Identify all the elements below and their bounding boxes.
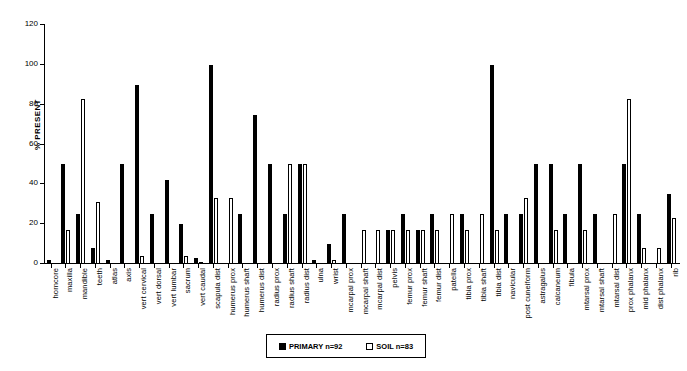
y-tick-label: 0 bbox=[34, 259, 38, 267]
bar-group bbox=[165, 24, 180, 264]
bar-soil bbox=[303, 164, 307, 264]
bar-soil bbox=[96, 202, 100, 264]
x-tick-label: rib bbox=[672, 268, 680, 277]
bar-soil bbox=[376, 230, 380, 264]
x-tick-label: horncore bbox=[52, 268, 60, 298]
x-tick-label: tibia prox bbox=[465, 268, 473, 299]
x-tick-label: calcaneum bbox=[554, 268, 562, 305]
bar-group bbox=[357, 24, 372, 264]
bar-primary bbox=[150, 214, 154, 264]
y-tick-label: 20 bbox=[29, 219, 38, 227]
y-tick-label: 100 bbox=[25, 60, 38, 68]
x-tick-label: wrist bbox=[332, 268, 340, 284]
bar-primary bbox=[298, 164, 302, 264]
bar-soil bbox=[524, 198, 528, 264]
bar-primary bbox=[253, 115, 257, 264]
bar-primary bbox=[519, 214, 523, 264]
bar-primary bbox=[504, 214, 508, 264]
bar-soil bbox=[199, 262, 203, 264]
bar-group bbox=[61, 24, 76, 264]
x-tick-label: mcarpal prox bbox=[347, 268, 355, 313]
bar-soil bbox=[332, 260, 336, 264]
x-tick-label: radius prox bbox=[273, 268, 281, 306]
bar-primary bbox=[637, 214, 641, 264]
bar-group bbox=[549, 24, 564, 264]
bar-soil bbox=[288, 164, 292, 264]
x-tick-label: axis bbox=[125, 268, 133, 282]
x-tick-label: mid phalanx bbox=[642, 268, 650, 310]
bar-primary bbox=[238, 214, 242, 264]
bar-group bbox=[519, 24, 534, 264]
bar-soil bbox=[613, 214, 617, 264]
bar-soil bbox=[421, 230, 425, 264]
bar-group bbox=[490, 24, 505, 264]
bar-primary bbox=[578, 164, 582, 264]
bar-soil bbox=[642, 248, 646, 264]
bar-group bbox=[416, 24, 431, 264]
x-tick-label: ulna bbox=[317, 268, 325, 283]
legend-label-primary: PRIMARY n=92 bbox=[289, 342, 343, 351]
bar-group bbox=[76, 24, 91, 264]
bar-primary bbox=[91, 248, 95, 264]
bar-group bbox=[298, 24, 313, 264]
legend-label-soil: SOIL n=83 bbox=[376, 342, 413, 351]
bar-group bbox=[667, 24, 682, 264]
bar-group bbox=[268, 24, 283, 264]
x-tick-label: pelvis bbox=[391, 268, 399, 288]
x-tick-label: vert lumbar bbox=[170, 268, 178, 307]
x-tick-label: fibula bbox=[568, 268, 576, 287]
bar-soil bbox=[435, 230, 439, 264]
bar-group bbox=[91, 24, 106, 264]
bar-soil bbox=[465, 230, 469, 264]
bar-group bbox=[563, 24, 578, 264]
bar-group bbox=[194, 24, 209, 264]
bar-primary bbox=[549, 164, 553, 264]
bar-soil bbox=[480, 214, 484, 264]
bar-group bbox=[135, 24, 150, 264]
bar-group bbox=[652, 24, 667, 264]
x-tick-label: sacrum bbox=[184, 268, 192, 293]
bar-soil bbox=[66, 230, 70, 264]
bar-soil bbox=[406, 230, 410, 264]
bar-group bbox=[622, 24, 637, 264]
x-tick-label: mtarsal dist bbox=[613, 268, 621, 308]
plot-area: 020406080100120 bbox=[44, 24, 680, 264]
legend-swatch-primary bbox=[279, 343, 286, 350]
bar-group bbox=[120, 24, 135, 264]
bar-primary bbox=[430, 214, 434, 264]
bar-primary bbox=[61, 164, 65, 264]
y-tick-label: 60 bbox=[29, 140, 38, 148]
x-tick-label: tibia dist bbox=[495, 268, 503, 297]
bar-primary bbox=[593, 214, 597, 264]
bar-group bbox=[593, 24, 608, 264]
bar-primary bbox=[622, 164, 626, 264]
bar-primary bbox=[534, 164, 538, 264]
bar-group bbox=[209, 24, 224, 264]
bar-primary bbox=[209, 65, 213, 264]
bar-primary bbox=[342, 214, 346, 264]
x-tick-label: mtarsal shaft bbox=[598, 268, 606, 312]
x-tick-label: femur shaft bbox=[421, 268, 429, 307]
bar-series-container bbox=[45, 24, 680, 264]
bar-soil bbox=[583, 230, 587, 264]
x-tick-label: vert caudal bbox=[199, 268, 207, 306]
chart-legend: PRIMARY n=92 SOIL n=83 bbox=[266, 334, 426, 358]
bar-soil bbox=[229, 198, 233, 264]
bar-primary bbox=[165, 180, 169, 264]
x-tick-label: scapula dist bbox=[214, 268, 222, 309]
bar-group bbox=[430, 24, 445, 264]
bar-primary bbox=[283, 214, 287, 264]
bar-primary bbox=[490, 65, 494, 264]
bar-primary bbox=[563, 214, 567, 264]
bar-group bbox=[534, 24, 549, 264]
bar-group bbox=[327, 24, 342, 264]
y-tick-label: 80 bbox=[29, 100, 38, 108]
x-tick-label: femur prox bbox=[406, 268, 414, 305]
x-tick-label: humerus shaft bbox=[243, 268, 251, 317]
bar-primary bbox=[460, 214, 464, 264]
bar-primary bbox=[386, 230, 390, 264]
bar-soil bbox=[627, 99, 631, 264]
bar-group bbox=[312, 24, 327, 264]
x-tick-label: atlas bbox=[111, 268, 119, 284]
y-tick-label: 120 bbox=[25, 20, 38, 28]
